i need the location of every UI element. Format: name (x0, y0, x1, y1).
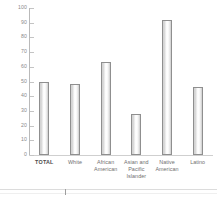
x-axis-category-label: TOTAL (29, 159, 60, 166)
x-axis-baseline (29, 155, 213, 156)
bar-slot (121, 8, 152, 155)
bar-slot (182, 8, 213, 155)
category-label-line: American (152, 166, 183, 173)
x-axis-category-label: NativeAmerican (152, 159, 183, 173)
plot-area: 1009080706050403020100 (0, 0, 217, 178)
x-axis-category-label: White (60, 159, 91, 166)
bar[interactable] (193, 87, 203, 155)
category-label-line: Latino (182, 159, 213, 166)
y-axis-tick-label: 80 (21, 33, 27, 39)
category-label-line: American (90, 166, 121, 173)
bar-chart: 1009080706050403020100 TOTALWhiteAfrican… (0, 0, 217, 199)
y-axis-tick-label: 20 (21, 122, 27, 128)
y-axis-tick-label: 100 (18, 4, 27, 10)
category-label-line: TOTAL (29, 159, 60, 166)
bar[interactable] (39, 82, 49, 156)
divider-line (0, 189, 217, 190)
y-axis-tick-label: 60 (21, 63, 27, 69)
bars-layer (29, 8, 213, 155)
category-label-line: Native (152, 159, 183, 166)
y-axis-tick-label: 0 (24, 151, 27, 157)
bar[interactable] (131, 114, 141, 155)
y-axis-tick-label: 10 (21, 136, 27, 142)
bar[interactable] (101, 62, 111, 155)
category-label-line: White (60, 159, 91, 166)
x-axis-category-label: Asian andPacificIslander (121, 159, 152, 181)
y-axis-tick-label: 50 (21, 78, 27, 84)
bar-slot (29, 8, 60, 155)
bar-slot (90, 8, 121, 155)
x-axis-category-label: AfricanAmerican (90, 159, 121, 173)
category-label-line: Islander (121, 173, 152, 180)
y-axis-tick-label: 40 (21, 92, 27, 98)
category-label-line: Asian and (121, 159, 152, 166)
y-axis-tick-label: 30 (21, 107, 27, 113)
bar-slot (60, 8, 91, 155)
y-axis-tick-label: 90 (21, 19, 27, 25)
bar[interactable] (162, 20, 172, 155)
category-label-line: African (90, 159, 121, 166)
category-label-line: Pacific (121, 166, 152, 173)
divider-tick-mark (65, 189, 66, 195)
bar-slot (152, 8, 183, 155)
y-axis-tick-label: 70 (21, 48, 27, 54)
bar[interactable] (70, 84, 80, 155)
y-axis-tick-mark (30, 155, 34, 156)
bottom-divider-strip (0, 189, 217, 199)
x-axis-category-label: Latino (182, 159, 213, 166)
divider-line-secondary (0, 193, 217, 194)
